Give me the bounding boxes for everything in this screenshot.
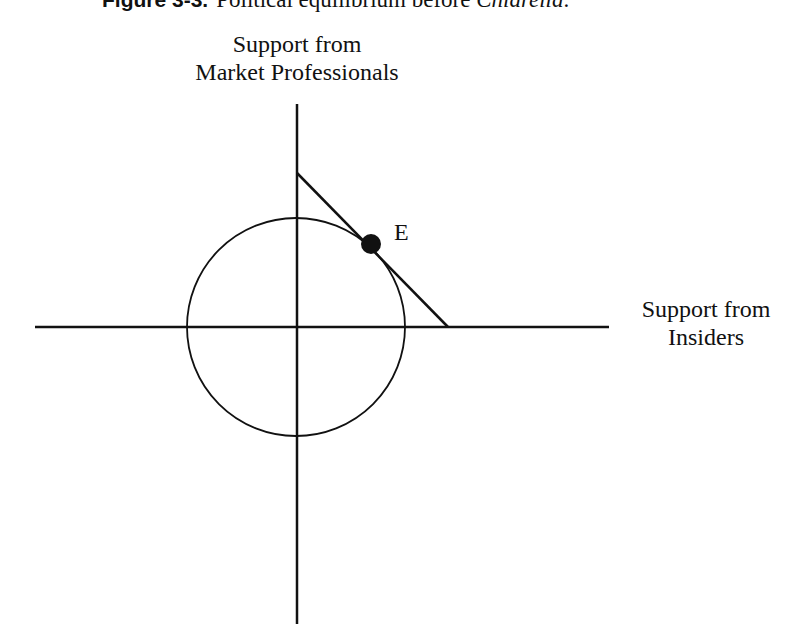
equilibrium-point bbox=[361, 234, 381, 254]
x-axis-label-line2: Insiders bbox=[618, 323, 794, 351]
x-axis-label-line1: Support from bbox=[618, 295, 794, 323]
equilibrium-label: E bbox=[394, 218, 409, 246]
y-axis-label: Support from Market Professionals bbox=[170, 30, 424, 86]
y-axis-label-line1: Support from bbox=[170, 30, 424, 58]
y-axis-label-line2: Market Professionals bbox=[170, 58, 424, 86]
x-axis-label: Support from Insiders bbox=[618, 295, 794, 351]
